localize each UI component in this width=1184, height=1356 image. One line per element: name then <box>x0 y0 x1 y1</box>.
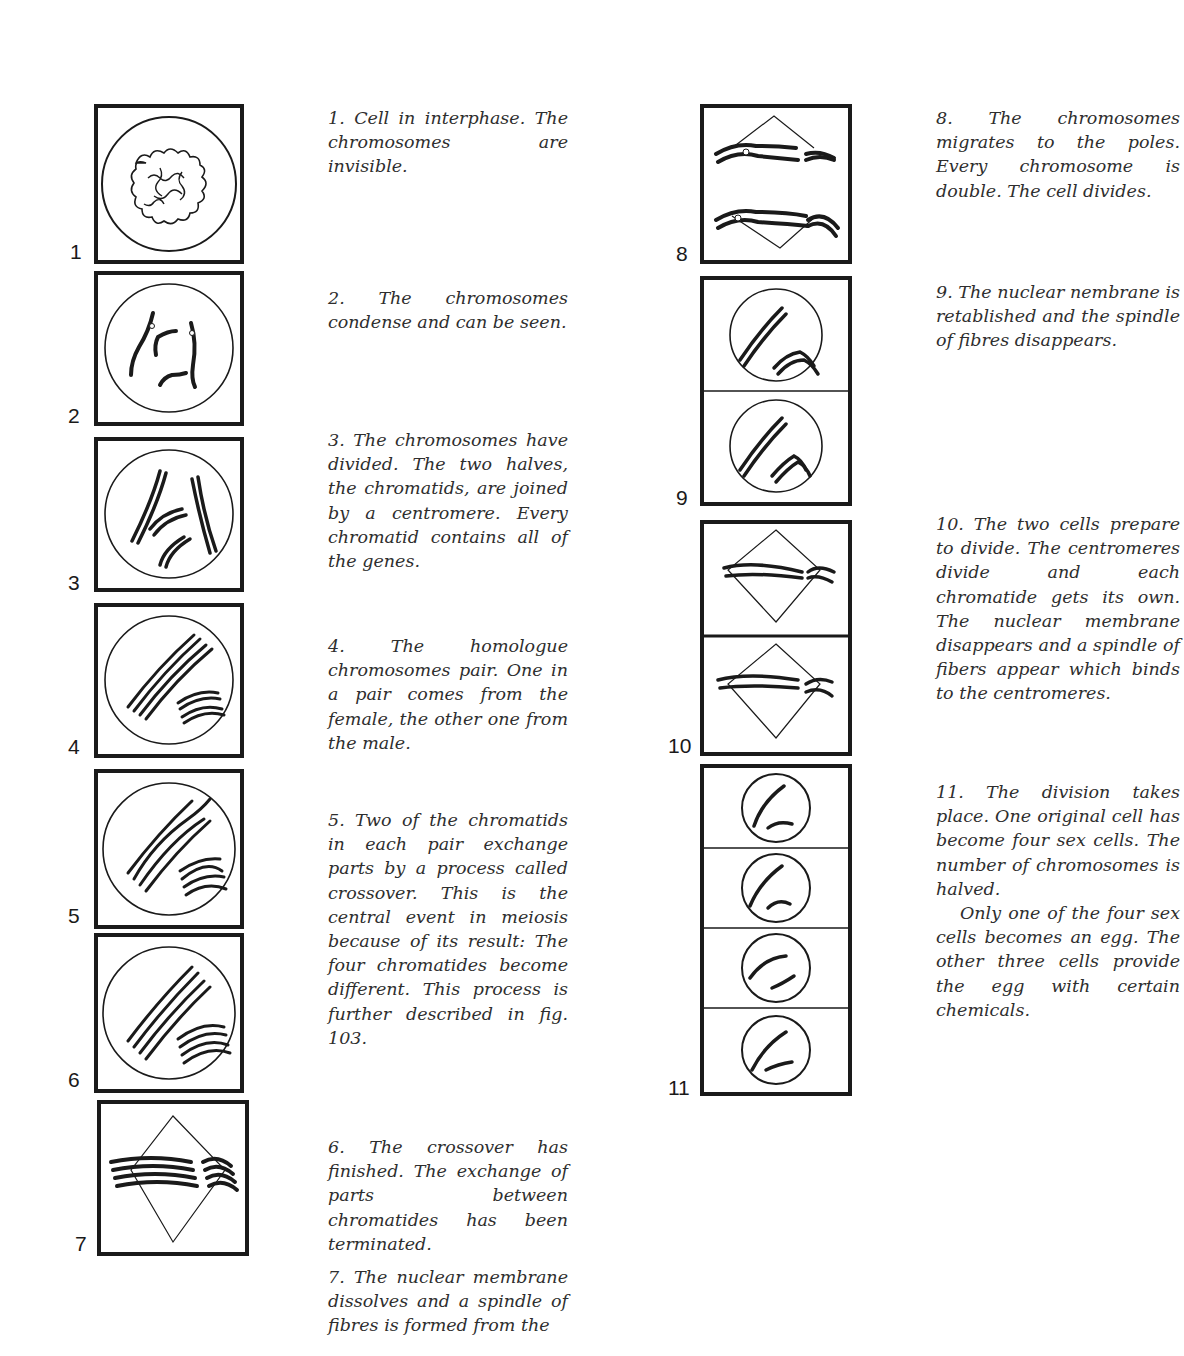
caption-stage-3: 3. The chromosomes have divided. The two… <box>328 428 568 573</box>
caption-stage-11-paragraph-1: 11. The division takes place. One origin… <box>936 780 1180 901</box>
stage-number-10: 10 <box>668 734 691 758</box>
stage-5-panel <box>94 769 244 929</box>
stage-10-panel <box>700 520 852 756</box>
stage-number-1: 1 <box>70 240 82 264</box>
stage-7-panel <box>97 1100 249 1256</box>
stage-number-2: 2 <box>68 404 80 428</box>
caption-stage-10: 10. The two cells prepare to divide. The… <box>936 512 1180 706</box>
interphase-cell-drawing <box>98 108 240 260</box>
second-division-spindle-drawing <box>704 524 848 752</box>
divided-chromosomes-drawing <box>98 441 240 588</box>
stage-3-panel <box>94 437 244 592</box>
stage-number-3: 3 <box>68 571 80 595</box>
spindle-formation-drawing <box>101 1104 245 1252</box>
stage-number-11: 11 <box>668 1076 690 1100</box>
two-cells-membrane-drawing <box>704 280 848 502</box>
caption-stage-11: 11. The division takes place. One origin… <box>936 780 1180 1022</box>
caption-stage-11-paragraph-2: Only one of the four sex cells becomes a… <box>936 901 1180 1022</box>
caption-stage-5: 5. Two of the chromatids in each pair ex… <box>328 808 568 1050</box>
stage-9-panel <box>700 276 852 506</box>
crossover-finished-drawing <box>98 937 240 1089</box>
stage-11-panel <box>700 764 852 1096</box>
caption-stage-4: 4. The homologue chromosomes pair. One i… <box>328 634 568 755</box>
caption-stage-9: 9. The nuclear nembrane is retablished a… <box>936 280 1180 353</box>
caption-stage-8: 8. The chromosomes migrates to the poles… <box>936 106 1180 203</box>
stage-number-9: 9 <box>676 486 688 510</box>
stage-number-5: 5 <box>68 904 80 928</box>
stage-1-panel <box>94 104 244 264</box>
condensed-chromosomes-drawing <box>98 275 240 422</box>
stage-number-4: 4 <box>68 735 80 759</box>
caption-stage-1: 1. Cell in interphase. The chromosomes a… <box>328 106 568 179</box>
stage-2-panel <box>94 271 244 426</box>
caption-stage-2: 2. The chromosomes condense and can be s… <box>328 286 568 334</box>
chromosome-migration-drawing <box>704 108 848 260</box>
stage-number-7: 7 <box>75 1232 87 1256</box>
stage-4-panel <box>94 603 244 758</box>
caption-stage-7: 7. The nuclear membrane dissolves and a … <box>328 1265 568 1338</box>
homologue-pairing-drawing <box>98 607 240 754</box>
four-sex-cells-drawing <box>704 768 848 1092</box>
crossover-drawing <box>98 773 240 925</box>
stage-8-panel <box>700 104 852 264</box>
stage-6-panel <box>94 933 244 1093</box>
caption-stage-6: 6. The crossover has finished. The excha… <box>328 1135 568 1256</box>
stage-number-6: 6 <box>68 1068 80 1092</box>
stage-number-8: 8 <box>676 242 688 266</box>
